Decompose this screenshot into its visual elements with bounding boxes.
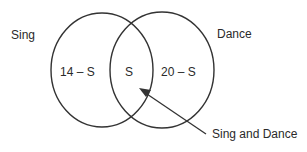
dance-only-region-label: 20 – S: [161, 66, 196, 78]
callout-label: Sing and Dance: [212, 128, 297, 140]
intersection-label: S: [125, 66, 133, 78]
sing-label: Sing: [11, 29, 35, 41]
sing-only-region-label: 14 – S: [60, 66, 95, 78]
dance-label: Dance: [217, 28, 252, 40]
